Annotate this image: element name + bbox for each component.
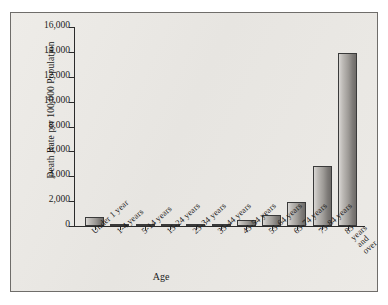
- x-axis-title-text: Age: [153, 271, 170, 282]
- chart-figure-frame: Death Rate per 100,000 Population 02,000…: [10, 12, 378, 292]
- y-axis-tick-label: 10,000: [44, 95, 70, 105]
- x-axis-title: Age: [11, 271, 379, 282]
- y-axis-tick-label: 0: [65, 219, 70, 229]
- y-axis-tick-label: 14,000: [44, 45, 70, 55]
- y-axis-tick-label: 2,000: [49, 194, 70, 204]
- y-axis-title: Death Rate per 100,000 Population: [46, 10, 56, 210]
- y-axis-tick-label: 6,000: [49, 144, 70, 154]
- y-axis-tick-label: 16,000: [44, 20, 70, 30]
- y-axis-tick-label: 8,000: [49, 120, 70, 130]
- plot-area: 02,0004,0006,0008,00010,00012,00014,0001…: [74, 27, 365, 226]
- y-axis-tick-label: 4,000: [49, 169, 70, 179]
- y-axis-tick-label: 12,000: [44, 70, 70, 80]
